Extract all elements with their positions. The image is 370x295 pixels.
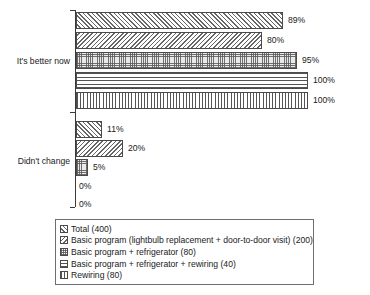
legend-label-rewiring: Rewiring (80)	[71, 270, 122, 280]
axis-tick-middle	[70, 112, 75, 113]
bar-value-better-rewiring: 100%	[313, 92, 335, 109]
bar-unchanged-basic-refrigerator	[76, 159, 88, 176]
legend-label-basic-refrigerator: Basic program + refrigerator (80)	[71, 247, 196, 257]
bar-value-better-basic-refrigerator-rewiring: 100%	[313, 72, 335, 89]
legend-label-total: Total (400)	[71, 224, 112, 234]
legend-item-basic-refrigerator: Basic program + refrigerator (80)	[60, 246, 310, 258]
bar-value-unchanged-total: 11%	[107, 121, 124, 138]
bar-value-unchanged-basic-refrigerator-rewiring: 0%	[79, 178, 91, 195]
legend-item-basic-refrigerator-rewiring: Basic program + refrigerator + rewiring …	[60, 258, 310, 270]
legend-item-rewiring: Rewiring (80)	[60, 269, 310, 281]
category-label-didnt-change: Didn't change	[18, 156, 70, 166]
bar-value-unchanged-rewiring: 0%	[79, 196, 91, 213]
bar-chart: It's better now 89% 80% 95% 100% 100% Di…	[0, 0, 370, 295]
legend-item-total: Total (400)	[60, 223, 310, 235]
bar-unchanged-total	[76, 121, 102, 138]
bar-better-basic-refrigerator-rewiring	[76, 72, 308, 89]
legend-item-basic-program: Basic program (lightbulb replacement + d…	[60, 235, 310, 247]
legend-swatch-forward-diagonal-hatch-icon	[60, 236, 68, 244]
bar-better-basic-refrigerator	[76, 52, 297, 69]
legend-label-basic-refrigerator-rewiring: Basic program + refrigerator + rewiring …	[71, 259, 236, 269]
bar-unchanged-basic-program	[76, 140, 123, 157]
legend-swatch-horizontal-lines-icon	[60, 260, 68, 268]
plot-area: It's better now 89% 80% 95% 100% 100% Di…	[0, 0, 370, 215]
bar-value-unchanged-basic-program: 20%	[128, 140, 145, 157]
bar-value-better-total: 89%	[288, 12, 305, 29]
legend-swatch-dotted-icon	[60, 248, 68, 256]
bar-value-better-basic-program: 80%	[267, 32, 284, 49]
legend-swatch-vertical-lines-icon	[60, 271, 68, 279]
legend-swatch-backward-diagonal-hatch-icon	[60, 225, 68, 233]
bar-better-basic-program	[76, 32, 262, 49]
bar-value-unchanged-basic-refrigerator: 5%	[93, 159, 105, 176]
bar-better-rewiring	[76, 92, 308, 109]
bar-value-better-basic-refrigerator: 95%	[302, 52, 319, 69]
category-label-better-now: It's better now	[17, 56, 70, 66]
axis-tick-top	[70, 10, 75, 11]
legend-label-basic-program: Basic program (lightbulb replacement + d…	[71, 235, 313, 245]
bar-better-total	[76, 12, 283, 29]
chart-legend: Total (400) Basic program (lightbulb rep…	[55, 219, 314, 285]
axis-tick-bottom	[70, 207, 75, 208]
